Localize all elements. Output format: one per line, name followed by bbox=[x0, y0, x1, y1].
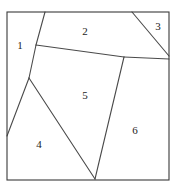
partition-diagram: 123456 bbox=[0, 0, 179, 193]
region-2-label: 2 bbox=[82, 25, 88, 37]
region-4-label: 4 bbox=[36, 138, 42, 150]
region-3-label: 3 bbox=[155, 20, 161, 32]
region-6-label: 6 bbox=[132, 124, 138, 136]
region-faces-group bbox=[7, 12, 169, 179]
region-5-label: 5 bbox=[82, 89, 88, 101]
figure-container: 123456 bbox=[0, 0, 179, 193]
region-1-label: 1 bbox=[17, 39, 23, 51]
